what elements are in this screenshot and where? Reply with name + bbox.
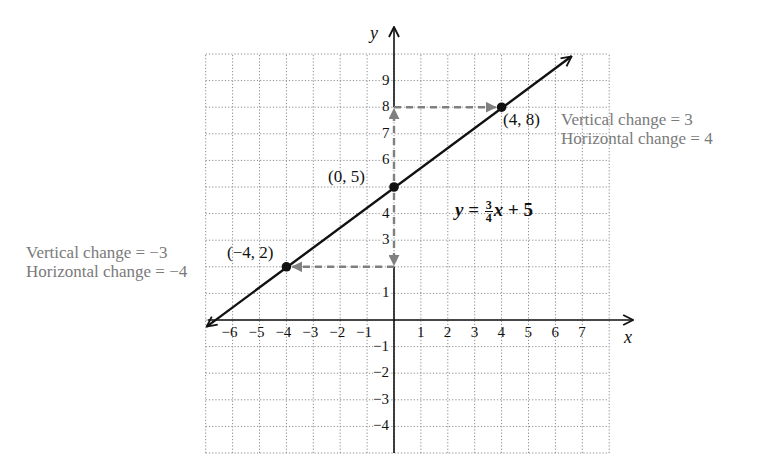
y-axis-label: y <box>370 24 378 42</box>
y-tick-label: 4 <box>382 206 390 221</box>
equation-fraction: 34 <box>485 199 493 224</box>
x-tick-label: −1 <box>356 325 372 340</box>
line-equation: y = 34x + 5 <box>455 199 533 224</box>
y-tick-label: 7 <box>382 126 390 141</box>
x-tick-label: 6 <box>551 325 559 340</box>
x-tick-label: −2 <box>329 325 345 340</box>
equation-x: x <box>494 199 504 220</box>
y-tick-label: 1 <box>382 285 390 300</box>
x-tick-label: 3 <box>471 325 479 340</box>
point-label-0-5: (0, 5) <box>328 168 365 185</box>
x-tick-label: −6 <box>222 325 238 340</box>
x-axis-label: x <box>624 328 632 346</box>
equation-equals: = <box>463 199 483 220</box>
point-marker <box>389 182 399 192</box>
x-tick-label: 2 <box>444 325 452 340</box>
coordinate-plane <box>0 0 783 473</box>
lower-horizontal-change: Horizontal change = −4 <box>26 263 187 280</box>
y-tick-label: 3 <box>382 232 390 247</box>
y-tick-label: 9 <box>382 73 390 88</box>
y-tick-label: −2 <box>373 365 389 380</box>
point-marker <box>282 262 292 272</box>
y-tick-label: 8 <box>382 99 390 114</box>
upper-horizontal-change: Horizontal change = 4 <box>561 130 713 147</box>
x-tick-label: 1 <box>417 325 425 340</box>
x-tick-label: 7 <box>578 325 586 340</box>
x-tick-label: −4 <box>275 325 291 340</box>
x-tick-label: −5 <box>249 325 265 340</box>
y-tick-label: −3 <box>373 392 389 407</box>
x-tick-label: 4 <box>498 325 506 340</box>
point-label-neg4-2: (−4, 2) <box>227 244 273 261</box>
upper-vertical-change: Vertical change = 3 <box>561 111 693 128</box>
y-tick-label: −4 <box>373 418 389 433</box>
x-tick-label: 5 <box>525 325 533 340</box>
lower-vertical-change: Vertical change = −3 <box>26 244 167 261</box>
y-tick-label: 6 <box>382 152 390 167</box>
x-tick-label: −3 <box>302 325 318 340</box>
y-tick-label: −1 <box>373 339 389 354</box>
equation-constant: + 5 <box>503 199 533 220</box>
point-label-4-8: (4, 8) <box>503 111 540 128</box>
fraction-denominator: 4 <box>485 212 493 224</box>
